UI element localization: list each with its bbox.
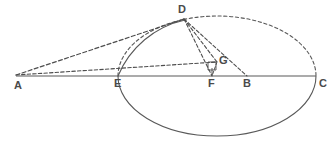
figure-canvas <box>0 0 334 144</box>
point-label-B: B <box>243 78 251 89</box>
point-label-G: G <box>219 55 228 66</box>
point-label-C: C <box>319 78 327 89</box>
line-DG <box>184 19 217 62</box>
point-label-E: E <box>114 78 121 89</box>
line-AG <box>16 62 217 75</box>
geometry-figure: A E F B C D G <box>0 0 334 144</box>
ellipse-lower-half-solid <box>118 76 316 136</box>
line-AD <box>16 19 184 75</box>
point-label-A: A <box>14 80 22 91</box>
point-label-D: D <box>178 4 186 15</box>
point-label-F: F <box>208 78 215 89</box>
